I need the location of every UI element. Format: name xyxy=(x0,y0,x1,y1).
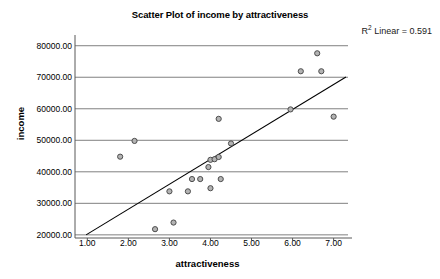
data-point xyxy=(228,141,233,146)
scatter-plot-figure: Scatter Plot of income by attractiveness… xyxy=(0,0,440,279)
data-points xyxy=(118,51,337,232)
data-point xyxy=(152,227,157,232)
data-point xyxy=(216,116,221,121)
data-point xyxy=(118,154,123,159)
data-point xyxy=(206,164,211,169)
data-point xyxy=(216,154,221,159)
data-point xyxy=(315,51,320,56)
data-point xyxy=(167,189,172,194)
data-point xyxy=(171,220,176,225)
data-point xyxy=(331,114,336,119)
data-point xyxy=(185,189,190,194)
data-point xyxy=(319,69,324,74)
data-point xyxy=(189,176,194,181)
data-point xyxy=(132,138,137,143)
data-point xyxy=(218,176,223,181)
data-point xyxy=(298,69,303,74)
data-point xyxy=(288,107,293,112)
axes xyxy=(75,35,352,238)
data-point xyxy=(208,186,213,191)
gridlines xyxy=(75,46,348,235)
data-point xyxy=(198,176,203,181)
plot-canvas xyxy=(0,0,440,279)
